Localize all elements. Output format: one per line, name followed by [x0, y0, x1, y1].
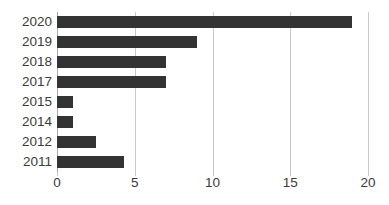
- y-axis-label-2020: 2020: [0, 15, 52, 29]
- x-axis-label-10: 10: [205, 176, 220, 190]
- y-axis-label-2012: 2012: [0, 135, 52, 149]
- x-axis-label-5: 5: [131, 176, 139, 190]
- bar-2018[interactable]: [57, 56, 166, 68]
- bar-row: [57, 72, 368, 92]
- plot-area: [57, 12, 368, 172]
- bar-row: [57, 12, 368, 32]
- bar-2011[interactable]: [57, 156, 124, 168]
- x-axis-label-15: 15: [283, 176, 298, 190]
- bar-2020[interactable]: [57, 16, 352, 28]
- y-axis-category-labels: 20202019201820172015201420122011: [0, 12, 52, 172]
- bar-chart: 20202019201820172015201420122011 0510152…: [0, 0, 389, 205]
- x-axis-tick-labels: 05101520: [57, 176, 368, 198]
- x-axis-label-0: 0: [53, 176, 61, 190]
- bar-2017[interactable]: [57, 76, 166, 88]
- y-axis-label-2018: 2018: [0, 55, 52, 69]
- bar-2015[interactable]: [57, 96, 73, 108]
- y-axis-label-2015: 2015: [0, 95, 52, 109]
- gridline-20: [368, 12, 369, 172]
- y-axis-label-2014: 2014: [0, 115, 52, 129]
- x-axis-label-20: 20: [360, 176, 375, 190]
- bar-2012[interactable]: [57, 136, 96, 148]
- y-axis-label-2019: 2019: [0, 35, 52, 49]
- bar-row: [57, 32, 368, 52]
- y-axis-label-2011: 2011: [0, 155, 52, 169]
- bar-2019[interactable]: [57, 36, 197, 48]
- bar-row: [57, 132, 368, 152]
- bar-row: [57, 92, 368, 112]
- y-axis-label-2017: 2017: [0, 75, 52, 89]
- bar-row: [57, 152, 368, 172]
- bar-row: [57, 112, 368, 132]
- bar-2014[interactable]: [57, 116, 73, 128]
- bar-row: [57, 52, 368, 72]
